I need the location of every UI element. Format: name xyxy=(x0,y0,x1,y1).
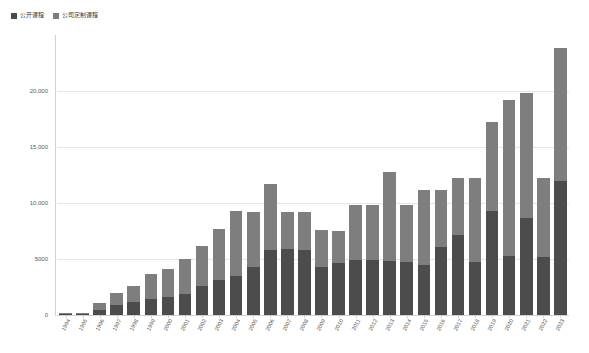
bar-segment-public-course xyxy=(435,247,448,315)
bar-column[interactable] xyxy=(279,35,296,315)
x-axis-tick-cell: 2019 xyxy=(484,316,501,353)
bar-column[interactable] xyxy=(415,35,432,315)
x-axis-tick-cell: 2000 xyxy=(159,316,176,353)
bar-column[interactable] xyxy=(57,35,74,315)
bar-segment-custom-course xyxy=(520,93,533,217)
bar-column[interactable] xyxy=(176,35,193,315)
bar-column[interactable] xyxy=(125,35,142,315)
x-axis-tick-cell: 2018 xyxy=(467,316,484,353)
bar-segment-public-course xyxy=(383,261,396,315)
x-axis-tick-cell: 2002 xyxy=(194,316,211,353)
bar-segment-public-course xyxy=(264,250,277,315)
bar-column[interactable] xyxy=(484,35,501,315)
bar-column[interactable] xyxy=(159,35,176,315)
x-axis-tick-cell: 2013 xyxy=(381,316,398,353)
x-axis-tick-cell: 2014 xyxy=(398,316,415,353)
bar-column[interactable] xyxy=(518,35,535,315)
x-axis-tick-label: 2012 xyxy=(367,318,378,332)
x-axis-tick-label: 2017 xyxy=(452,318,463,332)
x-axis-tick-cell: 2016 xyxy=(432,316,449,353)
bar-column[interactable] xyxy=(330,35,347,315)
x-axis-tick-cell: 2009 xyxy=(313,316,330,353)
x-axis-tick-label: 2021 xyxy=(520,318,531,332)
bar-segment-public-course xyxy=(520,218,533,315)
bar-segment-custom-course xyxy=(213,229,226,281)
x-axis-tick-cell: 2022 xyxy=(535,316,552,353)
bar-segment-custom-course xyxy=(196,246,209,286)
x-axis-tick-label: 2002 xyxy=(196,318,207,332)
bar-column[interactable] xyxy=(449,35,466,315)
x-axis-tick-label: 2023 xyxy=(555,318,566,332)
bar-column[interactable] xyxy=(381,35,398,315)
y-axis-tick-label: 15,000 xyxy=(30,144,48,150)
x-axis-tick-label: 1995 xyxy=(77,318,88,332)
x-axis-tick-label: 2005 xyxy=(247,318,258,332)
bar-column[interactable] xyxy=(262,35,279,315)
x-axis-tick-cell: 2015 xyxy=(415,316,432,353)
x-axis-tick-cell: 1995 xyxy=(74,316,91,353)
bar-segment-custom-course xyxy=(93,303,106,310)
x-axis-tick-label: 2001 xyxy=(179,318,190,332)
bar-column[interactable] xyxy=(467,35,484,315)
x-axis-tick-cell: 1994 xyxy=(57,316,74,353)
bar-column[interactable] xyxy=(296,35,313,315)
bar-segment-public-course xyxy=(366,260,379,315)
bar-column[interactable] xyxy=(74,35,91,315)
plot-area xyxy=(57,35,569,315)
bar-column[interactable] xyxy=(347,35,364,315)
bar-column[interactable] xyxy=(211,35,228,315)
bar-segment-public-course xyxy=(554,181,567,315)
bar-segment-custom-course xyxy=(332,231,345,263)
bar-segment-public-course xyxy=(418,265,431,315)
x-axis-tick-label: 2022 xyxy=(538,318,549,332)
legend-entry[interactable]: 公开课程 xyxy=(11,12,44,19)
bar-column[interactable] xyxy=(432,35,449,315)
bar-segment-public-course xyxy=(315,267,328,315)
bar-column[interactable] xyxy=(194,35,211,315)
bar-column[interactable] xyxy=(142,35,159,315)
x-axis-tick-cell: 1997 xyxy=(108,316,125,353)
y-axis-tick-label: 0 xyxy=(45,312,48,318)
bar-segment-custom-course xyxy=(127,286,140,302)
x-axis-tick-label: 2015 xyxy=(418,318,429,332)
bar-column[interactable] xyxy=(313,35,330,315)
bar-column[interactable] xyxy=(364,35,381,315)
bar-segment-custom-course xyxy=(469,178,482,262)
legend-label: 公开课程 xyxy=(20,12,44,19)
y-axis-line xyxy=(55,35,56,316)
x-axis-tick-cell: 2012 xyxy=(364,316,381,353)
bar-segment-custom-course xyxy=(554,48,567,180)
x-axis-tick-cell: 1998 xyxy=(125,316,142,353)
bar-segment-public-course xyxy=(537,257,550,315)
x-axis-tick-label: 2016 xyxy=(435,318,446,332)
bar-segment-custom-course xyxy=(298,212,311,250)
bar-segment-public-course xyxy=(332,263,345,315)
bar-column[interactable] xyxy=(108,35,125,315)
bar-column[interactable] xyxy=(535,35,552,315)
bar-segment-custom-course xyxy=(162,269,175,297)
bar-column[interactable] xyxy=(398,35,415,315)
bar-column[interactable] xyxy=(228,35,245,315)
x-axis-tick-cell: 2004 xyxy=(228,316,245,353)
chart-legend: 公开课程公司定制课程 xyxy=(11,12,98,19)
x-axis-tick-cell: 2006 xyxy=(262,316,279,353)
x-axis-tick-cell: 1996 xyxy=(91,316,108,353)
x-axis-tick-label: 1998 xyxy=(128,318,139,332)
x-axis-tick-label: 2007 xyxy=(282,318,293,332)
square-swatch-icon xyxy=(53,13,59,19)
bar-segment-custom-course xyxy=(486,122,499,210)
bar-column[interactable] xyxy=(91,35,108,315)
bar-segment-public-course xyxy=(213,280,226,315)
x-axis-tick-label: 1996 xyxy=(94,318,105,332)
x-axis-tick-label: 2009 xyxy=(316,318,327,332)
legend-entry[interactable]: 公司定制课程 xyxy=(53,12,98,19)
bar-column[interactable] xyxy=(501,35,518,315)
x-axis-tick-cell: 2020 xyxy=(501,316,518,353)
x-axis-tick-cell: 2010 xyxy=(330,316,347,353)
bar-column[interactable] xyxy=(552,35,569,315)
x-axis-tick-label: 2006 xyxy=(265,318,276,332)
bar-segment-public-course xyxy=(247,267,260,315)
bar-column[interactable] xyxy=(245,35,262,315)
bar-group xyxy=(57,35,569,315)
square-swatch-icon xyxy=(11,13,17,19)
